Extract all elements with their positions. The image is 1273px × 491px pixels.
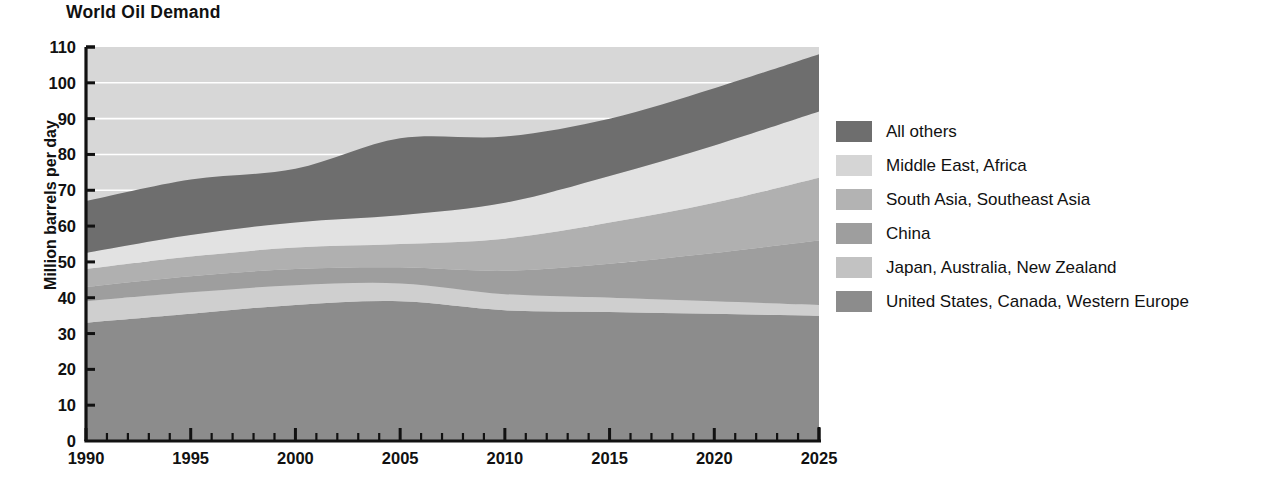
legend-swatch-icon xyxy=(836,291,872,312)
x-tick-label: 2015 xyxy=(580,450,640,467)
legend-item[interactable]: Middle East, Africa xyxy=(836,148,1266,182)
area-band xyxy=(86,301,819,441)
legend-swatch-icon xyxy=(836,155,872,176)
x-tick-label: 1990 xyxy=(56,450,116,467)
legend-item[interactable]: South Asia, Southeast Asia xyxy=(836,182,1266,216)
legend-swatch-icon xyxy=(836,223,872,244)
x-tick-label: 2025 xyxy=(789,450,849,467)
legend-item[interactable]: United States, Canada, Western Europe xyxy=(836,284,1266,318)
legend-label: All others xyxy=(886,123,957,140)
legend-label: United States, Canada, Western Europe xyxy=(886,293,1189,310)
legend-swatch-icon xyxy=(836,121,872,142)
chart-legend: All othersMiddle East, AfricaSouth Asia,… xyxy=(836,114,1266,318)
legend-swatch-icon xyxy=(836,257,872,278)
legend-label: South Asia, Southeast Asia xyxy=(886,191,1090,208)
legend-item[interactable]: China xyxy=(836,216,1266,250)
legend-item[interactable]: All others xyxy=(836,114,1266,148)
legend-item[interactable]: Japan, Australia, New Zealand xyxy=(836,250,1266,284)
x-tick-label: 2010 xyxy=(475,450,535,467)
chart-figure: World Oil Demand Million barrels per day… xyxy=(0,0,1273,491)
x-tick-label: 2005 xyxy=(370,450,430,467)
x-tick-label: 2000 xyxy=(265,450,325,467)
legend-label: Middle East, Africa xyxy=(886,157,1027,174)
legend-label: Japan, Australia, New Zealand xyxy=(886,259,1117,276)
x-tick-label: 2020 xyxy=(684,450,744,467)
x-tick-label: 1995 xyxy=(161,450,221,467)
legend-swatch-icon xyxy=(836,189,872,210)
legend-label: China xyxy=(886,225,930,242)
